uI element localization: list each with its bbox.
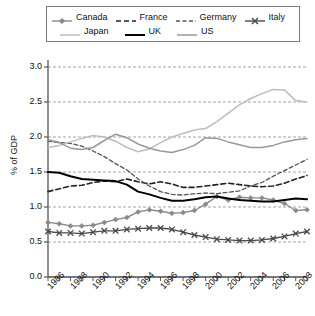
series-marker-canada [136,209,141,214]
plot-area: 0.00.51.01.52.02.53.01986198819901992199… [0,0,315,316]
chart-figure: Canada France Germany Italy Japan U [0,0,315,316]
y-tick-label: 1.5 [16,167,42,176]
series-marker-canada [147,207,152,212]
series-marker-canada [124,215,129,220]
series-line-france [48,176,307,192]
series-line-japan [48,89,307,151]
series-marker-canada [181,210,186,215]
series-marker-canada [102,220,107,225]
series-marker-canada [68,223,73,228]
series-marker-canada [57,221,62,226]
series-marker-canada [158,209,163,214]
series-marker-canada [259,195,264,200]
y-tick-label: 0.0 [16,272,42,281]
y-tick-label: 1.0 [16,202,42,211]
y-tick-label: 3.0 [16,62,42,71]
y-tick-label: 2.0 [16,132,42,141]
plot-svg [0,0,315,316]
series-marker-canada [169,211,174,216]
y-axis-title: % of GDP [9,125,19,185]
y-tick-label: 0.5 [16,237,42,246]
series-marker-canada [79,223,84,228]
series-marker-canada [46,220,51,225]
series-marker-canada [113,217,118,222]
series-marker-canada [305,207,310,212]
series-marker-canada [91,223,96,228]
y-tick-label: 2.5 [16,97,42,106]
series-line-italy [48,228,307,241]
